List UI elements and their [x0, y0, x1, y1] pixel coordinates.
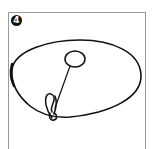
string	[55, 66, 70, 108]
step-illustration	[0, 0, 153, 149]
small-circle	[65, 51, 85, 67]
